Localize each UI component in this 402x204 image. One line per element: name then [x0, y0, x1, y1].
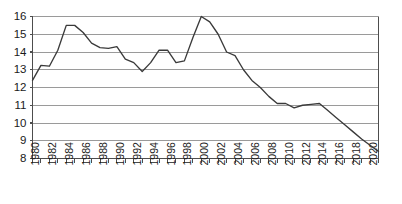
x-axis-tick-label: 1998 [181, 142, 193, 166]
y-axis-tick-label: 10 [14, 117, 27, 129]
y-axis-tick-label: 15 [14, 28, 27, 40]
x-axis-tick-label: 1984 [63, 142, 75, 166]
x-axis-tick-label: 1982 [46, 142, 58, 166]
x-axis-tick-label: 2012 [300, 142, 312, 166]
x-axis-tick-label: 2010 [283, 142, 295, 166]
y-axis-tick-label: 14 [14, 46, 27, 58]
x-axis-tick-label: 2000 [198, 142, 210, 166]
y-axis-tick-label: 8 [20, 152, 26, 164]
x-axis-tick-label: 2020 [367, 142, 379, 166]
line-chart: 8910111213141516 19801982198419861988199… [0, 0, 402, 204]
x-axis-tick-label: 2006 [249, 142, 261, 166]
y-axis-tick-label: 16 [14, 10, 27, 22]
x-axis-tick-labels: 1980198219841986198819901992199419961998… [29, 142, 379, 166]
x-axis-tick-label: 1996 [165, 142, 177, 166]
chart-canvas: 8910111213141516 19801982198419861988199… [0, 0, 402, 204]
gridlines [33, 17, 379, 159]
y-axis-tick-labels: 8910111213141516 [14, 10, 27, 164]
x-axis-tick-label: 2002 [215, 142, 227, 166]
y-axis [30, 17, 33, 159]
data-line [33, 17, 379, 152]
x-axis-tick-label: 1990 [114, 142, 126, 166]
data-series-line [33, 17, 379, 152]
x-axis-tick-label: 2008 [266, 142, 278, 166]
x-axis-tick-label: 2014 [316, 142, 328, 166]
x-axis-tick-label: 2004 [232, 142, 244, 166]
x-axis-tick-label: 2016 [333, 142, 345, 166]
x-axis-tick-label: 1992 [131, 142, 143, 166]
y-axis-tick-label: 13 [14, 63, 27, 75]
x-axis-tick-label: 2018 [350, 142, 362, 166]
x-axis-tick-label: 1988 [97, 142, 109, 166]
x-axis-tick-label: 1986 [80, 142, 92, 166]
x-axis-tick-label: 1994 [148, 142, 160, 166]
y-axis-tick-label: 11 [15, 99, 27, 111]
y-axis-tick-label: 12 [14, 81, 27, 93]
x-axis-tick-label: 1980 [29, 142, 41, 166]
y-axis-tick-label: 9 [20, 134, 26, 146]
